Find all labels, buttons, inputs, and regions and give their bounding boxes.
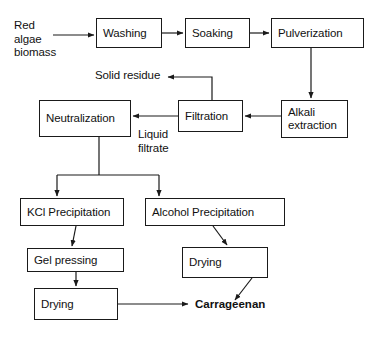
node-pulverization-label: Pulverization: [278, 27, 343, 40]
node-neutralization-label: Neutralization: [46, 112, 115, 125]
node-alcohol-precipitation[interactable]: Alcohol Precipitation: [145, 198, 285, 226]
label-carrageenan-product: Carrageenan: [195, 298, 265, 312]
label-feedstock: Red algae biomass: [14, 19, 56, 60]
node-drying-kcl-branch-label: Drying: [41, 298, 74, 311]
node-alcohol-precipitation-label: Alcohol Precipitation: [152, 206, 254, 219]
edge-drying-right-to-carrageenan: [235, 278, 252, 300]
label-solid-residue: Solid residue: [95, 69, 160, 83]
node-drying-kcl-branch[interactable]: Drying: [34, 288, 118, 320]
node-neutralization[interactable]: Neutralization: [39, 100, 131, 137]
node-drying-alcohol-branch[interactable]: Drying: [182, 247, 268, 278]
node-filtration[interactable]: Filtration: [178, 100, 243, 132]
node-filtration-label: Filtration: [185, 110, 228, 123]
node-pulverization[interactable]: Pulverization: [271, 18, 364, 48]
edge-kcl-to-gel-pressing: [72, 226, 76, 246]
node-kcl-precipitation-label: KCl Precipitation: [27, 206, 110, 219]
node-alkali-extraction[interactable]: Alkali extraction: [281, 100, 348, 138]
node-soaking-label: Soaking: [192, 27, 233, 40]
node-alkali-extraction-label: Alkali extraction: [288, 106, 337, 132]
edge-alcohol-to-drying: [213, 226, 227, 245]
node-kcl-precipitation[interactable]: KCl Precipitation: [20, 198, 124, 226]
node-soaking[interactable]: Soaking: [185, 18, 250, 48]
label-liquid-filtrate: Liquid filtrate: [138, 128, 169, 155]
node-gel-pressing-label: Gel pressing: [34, 254, 97, 267]
node-washing[interactable]: Washing: [96, 18, 162, 48]
node-gel-pressing[interactable]: Gel pressing: [27, 248, 124, 272]
node-washing-label: Washing: [103, 27, 147, 40]
edge-filtration-to-solid-residue: [168, 77, 212, 100]
process-flow-diagram: Washing Soaking Pulverization Alkali ext…: [0, 0, 367, 337]
node-drying-alcohol-branch-label: Drying: [189, 256, 222, 269]
